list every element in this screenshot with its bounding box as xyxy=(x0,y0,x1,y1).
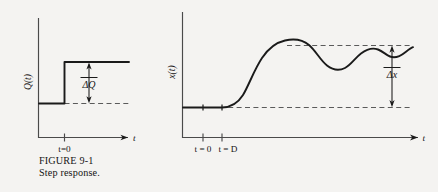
figure-caption-title: FIGURE 9-1 xyxy=(39,155,219,167)
chart-input-step: ΔQ Q(t) t t=0 xyxy=(22,18,136,154)
x-tick-label-t0-left: t=0 xyxy=(58,144,71,154)
chart-output-response: Δx x(t) t t = 0 t = D xyxy=(166,12,426,154)
response-curve xyxy=(183,40,413,108)
y-axis-label-left: Q(t) xyxy=(22,74,34,90)
x-tick-label-t0-right: t = 0 xyxy=(195,144,212,154)
y-axis-label-right: x(t) xyxy=(166,65,178,79)
delta-q-label: ΔQ xyxy=(81,79,96,90)
delta-x-label: Δx xyxy=(386,69,398,80)
x-tick-label-tD-right: t = D xyxy=(219,144,238,154)
figure-page: ΔQ Q(t) t t=0 xyxy=(0,0,438,192)
x-axis-label-right: t xyxy=(423,133,426,143)
figure-caption-text: Step response. xyxy=(39,167,219,179)
figure-caption: FIGURE 9-1 Step response. xyxy=(39,155,219,179)
x-axis-label-left: t xyxy=(133,133,136,143)
